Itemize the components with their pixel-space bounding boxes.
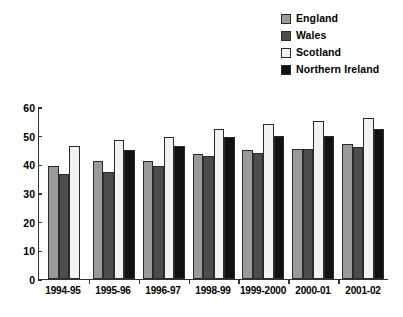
y-axis-ticks: 6050403020100: [0, 108, 38, 280]
legend-label-scotland: Scotland: [296, 47, 341, 58]
bar-wales-1998-99: [203, 156, 214, 279]
bar-wales-1995-96: [103, 172, 114, 280]
bar-england-1995-96: [93, 161, 104, 279]
bar-england-1996-97: [143, 161, 154, 279]
legend-item-england: England: [281, 13, 379, 24]
bar-wales-1996-97: [153, 166, 164, 279]
bar-group-2000-01: [288, 108, 338, 279]
x-group-separator: [139, 279, 141, 284]
x-group-separator: [189, 279, 191, 284]
bar-england-2001-02: [342, 144, 353, 279]
bar-scotland-1994-95: [69, 146, 80, 279]
bar-northern-ireland-1998-99: [224, 137, 235, 279]
bar-group-1994-95: [39, 108, 89, 279]
legend-label-england: England: [296, 13, 338, 24]
y-tick-label: 20: [23, 216, 38, 228]
plot-area: [38, 108, 388, 280]
x-label-1999-2000: 1999-2000: [238, 285, 288, 296]
legend-label-wales: Wales: [296, 30, 326, 41]
x-label-1998-99: 1998-99: [188, 285, 238, 296]
legend-item-northern-ireland: Northern Ireland: [281, 64, 379, 75]
bar-england-1999-2000: [242, 150, 253, 279]
y-tick-label: 30: [23, 188, 38, 200]
x-group-separator: [288, 279, 290, 284]
bar-scotland-2000-01: [313, 121, 324, 279]
x-group-separator: [238, 279, 240, 284]
bar-northern-ireland-1996-97: [174, 146, 185, 279]
bar-northern-ireland-1995-96: [124, 150, 135, 279]
legend-item-wales: Wales: [281, 30, 379, 41]
x-group-separator: [89, 279, 91, 284]
x-label-2000-01: 2000-01: [288, 285, 338, 296]
legend-swatch-england: [281, 14, 291, 24]
bar-northern-ireland-2001-02: [374, 129, 385, 280]
bar-scotland-2001-02: [363, 118, 374, 279]
bar-northern-ireland-2000-01: [324, 136, 335, 279]
bar-group-1998-99: [189, 108, 239, 279]
bar-wales-1994-95: [59, 174, 70, 279]
x-label-1994-95: 1994-95: [38, 285, 88, 296]
bar-scotland-1999-2000: [263, 124, 274, 279]
legend-swatch-scotland: [281, 48, 291, 58]
bar-scotland-1995-96: [114, 140, 125, 279]
legend-swatch-wales: [281, 31, 291, 41]
bar-group-1999-2000: [238, 108, 288, 279]
y-tick-label: 10: [23, 245, 38, 257]
bar-wales-2001-02: [353, 147, 364, 279]
x-group-separator: [338, 279, 340, 284]
bar-northern-ireland-1999-2000: [274, 136, 285, 279]
bar-group-1995-96: [89, 108, 139, 279]
bar-groups: [39, 108, 388, 279]
bar-scotland-1998-99: [214, 129, 225, 280]
y-tick-label: 50: [23, 130, 38, 142]
bar-england-2000-01: [292, 149, 303, 279]
legend-item-scotland: Scotland: [281, 47, 379, 58]
x-axis-labels: 1994-951995-961996-971998-991999-2000200…: [38, 285, 388, 296]
x-label-2001-02: 2001-02: [338, 285, 388, 296]
legend-swatch-northern-ireland: [281, 65, 291, 75]
bar-wales-2000-01: [303, 149, 314, 279]
x-label-1996-97: 1996-97: [138, 285, 188, 296]
bar-scotland-1996-97: [164, 137, 175, 279]
chart-legend: England Wales Scotland Northern Ireland: [281, 13, 379, 75]
bar-group-1996-97: [139, 108, 189, 279]
bar-england-1994-95: [48, 166, 59, 279]
y-tick-label: 60: [23, 102, 38, 114]
y-tick-label: 40: [23, 159, 38, 171]
bar-wales-1999-2000: [253, 153, 264, 279]
legend-label-northern-ireland: Northern Ireland: [296, 64, 379, 75]
chart-container: England Wales Scotland Northern Ireland …: [0, 0, 403, 317]
bar-group-2001-02: [338, 108, 388, 279]
y-tick-label: 0: [29, 274, 38, 286]
x-label-1995-96: 1995-96: [88, 285, 138, 296]
bar-england-1998-99: [193, 154, 204, 279]
